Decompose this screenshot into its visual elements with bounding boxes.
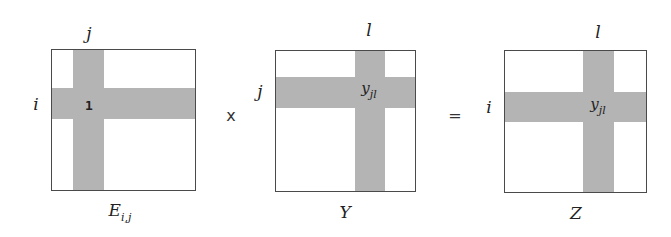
row-i-highlight — [505, 92, 646, 122]
multiply-operator: x — [226, 108, 235, 124]
matrix-y-entry: yjl — [361, 81, 376, 100]
matrix-y — [275, 50, 416, 192]
matrix-z-col-label: l — [595, 24, 600, 41]
entry-sub: jl — [599, 104, 606, 117]
row-i-highlight — [52, 88, 195, 119]
matrix-e-label-sub: i,j — [121, 211, 131, 224]
matrix-e-label-main: E — [109, 200, 121, 220]
matrix-e — [51, 49, 196, 191]
equals-operator: = — [448, 108, 461, 124]
matrix-z — [504, 50, 647, 193]
matrix-y-col-label: l — [366, 22, 371, 39]
matrix-e-entry: 1 — [85, 99, 93, 112]
column-j-highlight — [73, 50, 104, 190]
entry-sub: jl — [370, 88, 377, 101]
matrix-y-label: Y — [339, 204, 350, 221]
column-l-highlight — [355, 51, 385, 191]
row-j-highlight — [276, 77, 415, 108]
matrix-z-row-label: i — [486, 99, 491, 116]
matrix-y-row-label: j — [257, 83, 262, 100]
matrix-e-col-label: j — [86, 25, 91, 42]
matrix-z-entry: yjl — [590, 97, 605, 116]
matrix-product-diagram: j i 1 Ei,j x l j yjl Y = l i yjl Z — [0, 0, 671, 237]
matrix-e-row-label: i — [33, 96, 38, 113]
matrix-e-label: Ei,j — [109, 202, 132, 223]
matrix-z-label: Z — [570, 205, 582, 222]
